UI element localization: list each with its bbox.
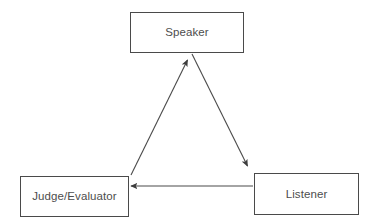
- diagram-canvas: Speaker Judge/Evaluator Listener: [0, 0, 372, 223]
- node-listener-label: Listener: [286, 188, 328, 201]
- node-judge-evaluator[interactable]: Judge/Evaluator: [20, 176, 129, 217]
- node-judge-evaluator-label: Judge/Evaluator: [32, 190, 117, 203]
- edge-speaker-to-listener: [192, 54, 248, 166]
- node-speaker[interactable]: Speaker: [130, 12, 244, 53]
- node-listener[interactable]: Listener: [254, 173, 359, 215]
- edge-judge-to-speaker: [131, 60, 188, 175]
- node-speaker-label: Speaker: [165, 26, 209, 39]
